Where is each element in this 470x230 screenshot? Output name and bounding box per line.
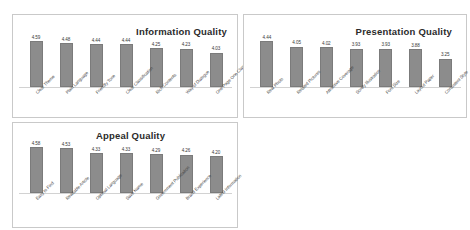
category-label-slot: Clear Theme — [21, 88, 51, 118]
category-label-slot: Optimal Language — [81, 194, 111, 224]
bar-value-label: 4.44 — [92, 38, 101, 43]
category-label-slot: Clear Classification — [111, 88, 141, 118]
category-label-slot: Easy to Find — [21, 194, 51, 224]
category-label-slot: Plain Language — [51, 88, 81, 118]
bar-value-label: 4.53 — [62, 142, 71, 147]
bar-value-label: 3.88 — [411, 43, 420, 48]
chart-panel-presentation-quality: Presentation Quality 4.444.054.023.933.9… — [243, 14, 467, 118]
bar-value-label: 4.03 — [212, 46, 221, 51]
category-label-slot: Consistent Style — [430, 88, 460, 118]
bar-value-label: 4.48 — [62, 37, 71, 42]
category-label-slot: Save Name — [111, 194, 141, 224]
category-label-slot: Attractive Coverage — [311, 88, 341, 118]
bar-value-label: 4.44 — [263, 35, 272, 40]
bar-value-label: 4.20 — [212, 150, 221, 155]
category-label-slot: Brand Experience — [171, 194, 201, 224]
bar — [180, 49, 193, 87]
category-labels-information-quality: Clear ThemePlain LanguageFriendly ToneCl… — [21, 88, 231, 118]
category-label-slot: Latest Information — [201, 194, 231, 224]
bar-value-label: 4.05 — [292, 40, 301, 45]
bar — [60, 148, 73, 193]
bar — [409, 49, 422, 87]
bar — [60, 43, 73, 87]
bar-value-label: 4.33 — [92, 147, 101, 152]
bar-value-label: 4.23 — [182, 42, 191, 47]
bar-value-label: 4.26 — [182, 148, 191, 153]
category-label-slot: Sorely Illustration — [341, 88, 371, 118]
bar-value-label: 3.93 — [381, 42, 390, 47]
bar-value-label: 4.59 — [32, 35, 41, 40]
bar — [439, 59, 452, 87]
bar — [120, 44, 133, 87]
bar-value-label: 4.58 — [32, 141, 41, 146]
bar-value-label: 4.44 — [122, 38, 131, 43]
bar-value-label: 4.02 — [322, 41, 331, 46]
category-label-slot: One Page One Class — [201, 88, 231, 118]
category-label-slot: Rich Contents — [141, 88, 171, 118]
bar — [90, 44, 103, 87]
bar-value-label: 4.25 — [152, 42, 161, 47]
bar — [260, 41, 273, 87]
bar — [210, 53, 223, 87]
bar-value-label: 3.93 — [352, 42, 361, 47]
bar — [30, 147, 43, 193]
bar-value-label: 4.29 — [152, 148, 161, 153]
category-label-slot: Way of Dialogue — [171, 88, 201, 118]
category-label-slot: Font Size — [371, 88, 401, 118]
category-label-slot: Layout Paper — [401, 88, 431, 118]
bar — [30, 41, 43, 87]
category-label-slot: Friendly Tone — [81, 88, 111, 118]
bar — [290, 47, 303, 87]
bar — [150, 154, 163, 193]
bar-value-label: 3.25 — [441, 52, 450, 57]
chart-panel-appeal-quality: Appeal Quality 4.584.534.334.334.294.264… — [12, 122, 238, 228]
bar-value-label: 4.33 — [122, 147, 131, 152]
bar — [120, 153, 133, 193]
category-labels-presentation-quality: Real PhotoRelated PicturesAttractive Cov… — [252, 88, 460, 118]
category-label-slot: Real Photo — [252, 88, 282, 118]
bar — [379, 49, 392, 87]
bar — [320, 47, 333, 87]
category-label-slot: Readable Article — [51, 194, 81, 224]
category-label-slot: Related Pictures — [282, 88, 312, 118]
bar — [210, 156, 223, 193]
bar — [90, 153, 103, 193]
category-label-slot: Government Publication — [141, 194, 171, 224]
category-labels-appeal-quality: Easy to FindReadable ArticleOptimal Lang… — [21, 194, 231, 224]
chart-panel-information-quality: Information Quality 4.594.484.444.444.25… — [12, 14, 238, 118]
